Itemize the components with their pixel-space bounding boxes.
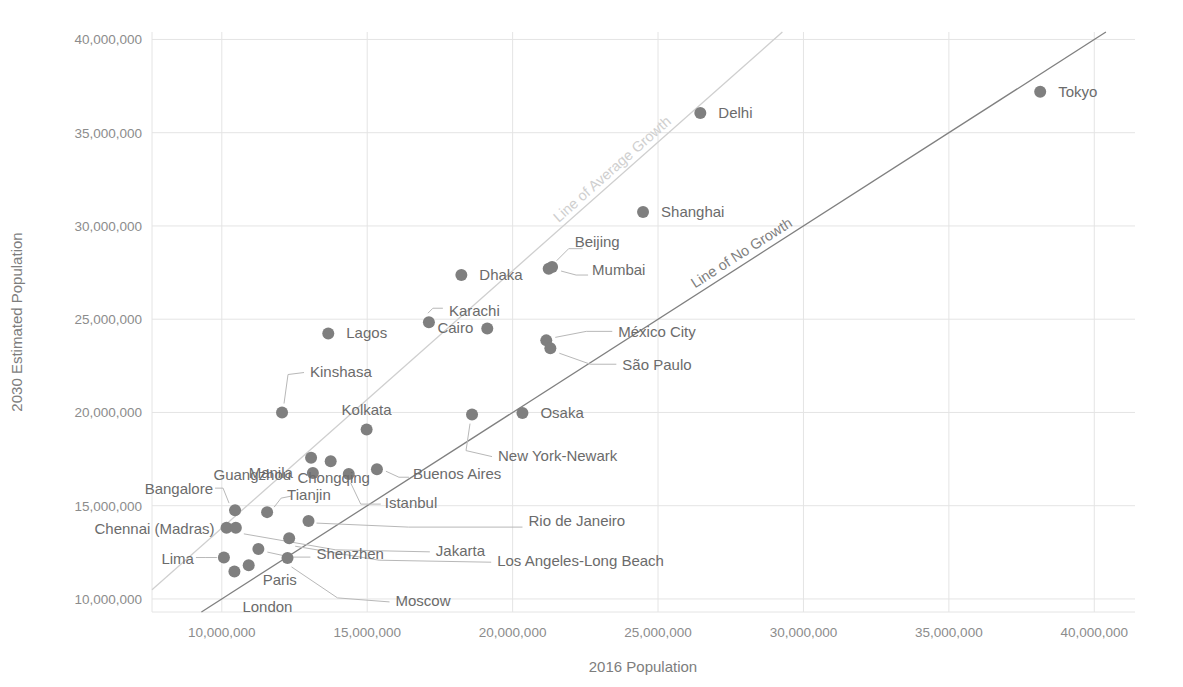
data-point-label: London bbox=[242, 598, 292, 615]
data-point[interactable] bbox=[423, 316, 435, 328]
x-tick-label: 35,000,000 bbox=[915, 625, 983, 640]
data-point[interactable] bbox=[229, 504, 241, 516]
data-point-label: Kinshasa bbox=[310, 363, 372, 380]
data-point[interactable] bbox=[276, 407, 288, 419]
data-point-label: Dhaka bbox=[479, 266, 523, 283]
data-point[interactable] bbox=[546, 261, 558, 273]
data-point-label: Paris bbox=[263, 571, 297, 588]
data-point-label: Delhi bbox=[718, 104, 752, 121]
data-point-label: Osaka bbox=[540, 404, 584, 421]
data-point-label: Buenos Aires bbox=[413, 465, 501, 482]
data-point-label: Kolkata bbox=[342, 401, 393, 418]
y-tick-label: 25,000,000 bbox=[74, 312, 142, 327]
data-point[interactable] bbox=[218, 552, 230, 564]
data-point-label: Shanghai bbox=[661, 203, 724, 220]
data-point[interactable] bbox=[466, 409, 478, 421]
chart-background bbox=[0, 0, 1183, 687]
x-tick-label: 15,000,000 bbox=[333, 625, 401, 640]
y-tick-label: 15,000,000 bbox=[74, 499, 142, 514]
data-point[interactable] bbox=[516, 407, 528, 419]
data-point-label: Cairo bbox=[437, 319, 473, 336]
data-point[interactable] bbox=[243, 559, 255, 571]
data-point-label: Lima bbox=[161, 550, 194, 567]
y-tick-label: 10,000,000 bbox=[74, 592, 142, 607]
data-point[interactable] bbox=[455, 269, 467, 281]
x-tick-label: 20,000,000 bbox=[479, 625, 547, 640]
data-point[interactable] bbox=[1034, 86, 1046, 98]
data-point-label: New York-Newark bbox=[498, 447, 618, 464]
data-point-label: São Paulo bbox=[622, 356, 691, 373]
data-point-label: Beijing bbox=[575, 233, 620, 250]
data-point-label: Manila bbox=[249, 464, 294, 481]
y-tick-label: 35,000,000 bbox=[74, 126, 142, 141]
chart-canvas: Line of No GrowthLine of Average Growth … bbox=[0, 0, 1183, 687]
data-point[interactable] bbox=[230, 522, 242, 534]
data-point-label: Tokyo bbox=[1058, 83, 1097, 100]
data-point-label: Mumbai bbox=[592, 261, 645, 278]
data-point-label: Karachi bbox=[449, 302, 500, 319]
x-tick-label: 10,000,000 bbox=[188, 625, 256, 640]
data-point-label: Lagos bbox=[346, 324, 387, 341]
data-point[interactable] bbox=[694, 107, 706, 119]
data-point-label: Chongqing bbox=[297, 469, 370, 486]
data-point-label: Istanbul bbox=[385, 494, 438, 511]
y-tick-label: 30,000,000 bbox=[74, 219, 142, 234]
y-tick-label: 40,000,000 bbox=[74, 32, 142, 47]
data-point[interactable] bbox=[305, 452, 317, 464]
data-point-label: Bangalore bbox=[145, 480, 213, 497]
data-point[interactable] bbox=[228, 566, 240, 578]
data-point[interactable] bbox=[481, 322, 493, 334]
data-point[interactable] bbox=[544, 342, 556, 354]
data-point[interactable] bbox=[302, 515, 314, 527]
x-tick-label: 30,000,000 bbox=[770, 625, 838, 640]
y-tick-label: 20,000,000 bbox=[74, 405, 142, 420]
data-point[interactable] bbox=[371, 463, 383, 475]
scatter-chart: Line of No GrowthLine of Average Growth … bbox=[0, 0, 1183, 687]
data-point-label: Shenzhen bbox=[316, 545, 384, 562]
data-point-label: Jakarta bbox=[436, 542, 486, 559]
data-point[interactable] bbox=[637, 206, 649, 218]
data-point-label: Chennai (Madras) bbox=[94, 520, 214, 537]
data-point[interactable] bbox=[282, 552, 294, 564]
data-point[interactable] bbox=[325, 455, 337, 467]
x-tick-label: 40,000,000 bbox=[1060, 625, 1128, 640]
data-point-label: Rio de Janeiro bbox=[528, 512, 625, 529]
x-axis-title: 2016 Population bbox=[589, 658, 697, 675]
data-point-label: Moscow bbox=[396, 592, 451, 609]
data-point[interactable] bbox=[283, 532, 295, 544]
data-point[interactable] bbox=[252, 543, 264, 555]
data-point-label: México City bbox=[618, 323, 696, 340]
data-point-label: Los Angeles-Long Beach bbox=[497, 552, 664, 569]
data-point[interactable] bbox=[322, 327, 334, 339]
x-tick-label: 25,000,000 bbox=[624, 625, 692, 640]
data-point[interactable] bbox=[261, 506, 273, 518]
data-point[interactable] bbox=[361, 423, 373, 435]
y-axis-title: 2030 Estimated Population bbox=[8, 232, 25, 411]
data-point-label: Tianjin bbox=[287, 486, 331, 503]
